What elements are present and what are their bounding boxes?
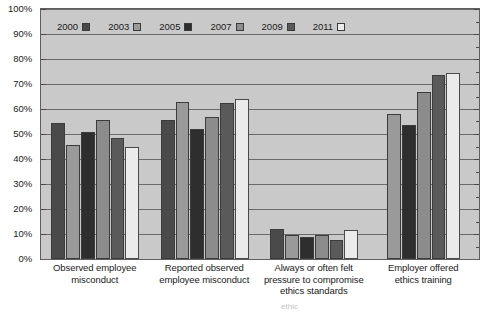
- bar-2005[interactable]: [81, 132, 95, 260]
- y-axis-tick-label: 70%: [0, 79, 36, 89]
- y-axis-tick-label: 40%: [0, 154, 36, 164]
- bar-2000[interactable]: [51, 123, 65, 259]
- bar-groups: [41, 9, 479, 259]
- legend-item-2011[interactable]: 2011: [313, 22, 345, 32]
- legend-label: 2005: [159, 22, 180, 32]
- y-axis-tick-label: 60%: [0, 104, 36, 114]
- legend-swatch: [133, 23, 141, 31]
- x-axis-label-line: Employer offered: [362, 262, 484, 274]
- bar-2003[interactable]: [285, 235, 299, 259]
- bar-2007[interactable]: [96, 120, 110, 259]
- x-axis-label-line: misconduct: [33, 274, 157, 286]
- y-axis-tick: [40, 259, 46, 260]
- x-axis-label-line: ethics training: [362, 274, 484, 286]
- plot-area: 200020032005200720092011: [40, 8, 480, 260]
- legend-label: 2003: [108, 22, 129, 32]
- bar-2007[interactable]: [205, 117, 219, 260]
- bar-group: [387, 9, 461, 259]
- bar-2003[interactable]: [66, 145, 80, 259]
- bar-2003[interactable]: [387, 114, 401, 259]
- y-axis-tick-label: 100%: [0, 4, 36, 14]
- source-note: ethic: [0, 301, 484, 312]
- legend-swatch: [82, 23, 90, 31]
- legend-label: 2000: [57, 22, 78, 32]
- bar-2000[interactable]: [270, 229, 284, 259]
- bar-2005[interactable]: [402, 125, 416, 259]
- legend-swatch: [287, 23, 295, 31]
- y-axis-tick-right: [474, 259, 480, 260]
- legend-swatch: [337, 23, 345, 31]
- legend-item-2005[interactable]: 2005: [159, 22, 192, 32]
- bar-2009[interactable]: [111, 138, 125, 259]
- legend-item-2003[interactable]: 2003: [108, 22, 141, 32]
- y-axis-minor-tick-right: [476, 259, 480, 260]
- bar-group: [161, 9, 250, 259]
- y-axis-tick-label: 10%: [0, 229, 36, 239]
- bar-group: [51, 9, 140, 259]
- y-axis-tick-label: 50%: [0, 129, 36, 139]
- bar-2005[interactable]: [300, 237, 314, 260]
- legend-label: 2009: [262, 22, 283, 32]
- y-axis-tick-label: 20%: [0, 204, 36, 214]
- bar-2009[interactable]: [432, 75, 446, 259]
- x-axis-label-line: Observed employee: [33, 262, 157, 274]
- bar-2003[interactable]: [176, 102, 190, 260]
- bar-group: [270, 9, 359, 259]
- y-axis-tick-label: 90%: [0, 29, 36, 39]
- bar-2011[interactable]: [446, 73, 460, 259]
- x-axis-label: Employer offeredethics training: [362, 262, 484, 285]
- legend-swatch: [236, 23, 244, 31]
- legend-item-2009[interactable]: 2009: [262, 22, 295, 32]
- x-axis-label-line: ethics standards: [245, 285, 383, 297]
- bar-2005[interactable]: [190, 129, 204, 259]
- bar-2007[interactable]: [315, 235, 329, 259]
- bar-2011[interactable]: [235, 99, 249, 259]
- bar-2009[interactable]: [330, 240, 344, 259]
- x-axis-label: Observed employeemisconduct: [33, 262, 157, 285]
- y-axis-tick-label: 0%: [0, 254, 36, 264]
- x-axis-labels: Observed employeemisconductReported obse…: [40, 262, 480, 304]
- legend-item-2000[interactable]: 2000: [57, 22, 90, 32]
- y-axis: 0%10%20%30%40%50%60%70%80%90%100%: [0, 8, 36, 260]
- bar-2000[interactable]: [161, 120, 175, 259]
- bar-chart: 0%10%20%30%40%50%60%70%80%90%100% 200020…: [0, 0, 484, 312]
- bar-2011[interactable]: [125, 147, 139, 260]
- legend: 200020032005200720092011: [51, 17, 369, 37]
- y-axis-tick-label: 80%: [0, 54, 36, 64]
- legend-label: 2007: [210, 22, 231, 32]
- bar-2009[interactable]: [220, 103, 234, 259]
- legend-label: 2011: [313, 22, 333, 32]
- legend-swatch: [184, 23, 192, 31]
- bar-2011[interactable]: [344, 230, 358, 259]
- y-axis-tick-label: 30%: [0, 179, 36, 189]
- legend-item-2007[interactable]: 2007: [210, 22, 243, 32]
- bar-2007[interactable]: [417, 92, 431, 260]
